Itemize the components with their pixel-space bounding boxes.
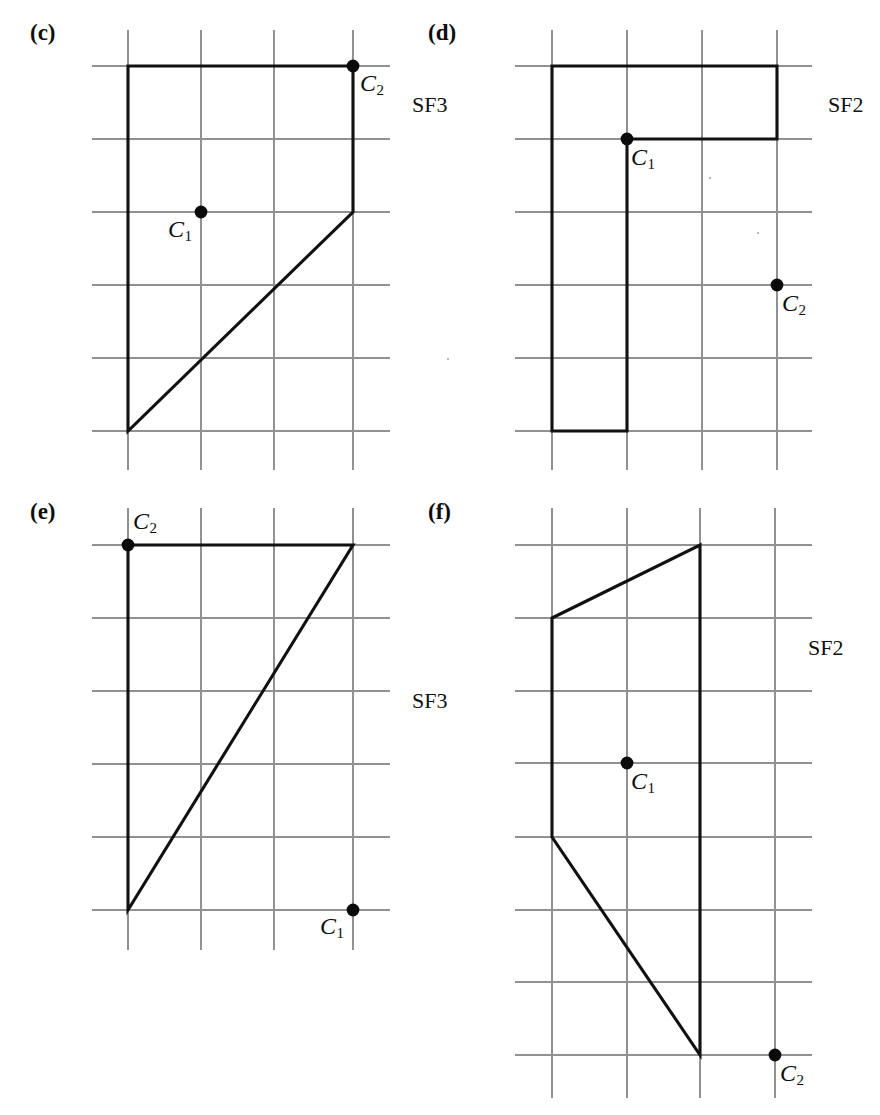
panel-f-label-c2: C2 — [780, 1060, 804, 1089]
panel-f-label-c1: C1 — [631, 768, 655, 797]
panel-f-grid — [515, 508, 812, 1098]
marker-subscript: 1 — [648, 780, 656, 796]
marker-letter: C — [631, 768, 647, 794]
marker-subscript: 2 — [797, 1072, 805, 1088]
panel-f-canvas — [0, 0, 880, 1115]
marker-letter: C — [780, 1060, 796, 1086]
panel-f-shape — [552, 545, 700, 1055]
geometry-figure: (c) SF3 C2 C1 ( — [0, 0, 880, 1115]
